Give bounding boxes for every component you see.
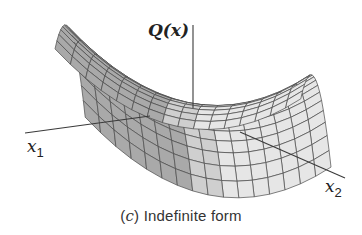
x1-axis-label: x1 bbox=[27, 136, 44, 160]
mesh-cell bbox=[233, 152, 250, 166]
mesh-cell bbox=[206, 178, 223, 197]
mesh-cell bbox=[252, 178, 269, 197]
mesh-cell bbox=[235, 165, 252, 181]
mesh-cell bbox=[193, 121, 210, 130]
mesh-cell bbox=[218, 152, 235, 166]
mesh-cell bbox=[216, 141, 233, 153]
mesh-cell bbox=[209, 120, 226, 129]
mesh-cell bbox=[237, 180, 254, 198]
q-axis-label: Q(x) bbox=[148, 20, 189, 40]
saddle-surface-diagram: Q(x) x1 x2 bbox=[0, 0, 362, 235]
figure-caption: (c) Indefinite form bbox=[0, 207, 362, 225]
mesh-cell bbox=[250, 163, 267, 181]
mesh-cell bbox=[222, 181, 239, 198]
mesh-cell bbox=[204, 163, 221, 180]
mesh-cell bbox=[195, 114, 212, 121]
x2-axis-label: x2 bbox=[325, 176, 342, 200]
mesh-cell bbox=[229, 130, 246, 141]
mesh-cell bbox=[231, 140, 248, 153]
mesh-cell bbox=[220, 166, 237, 182]
mesh-cell bbox=[214, 131, 231, 142]
